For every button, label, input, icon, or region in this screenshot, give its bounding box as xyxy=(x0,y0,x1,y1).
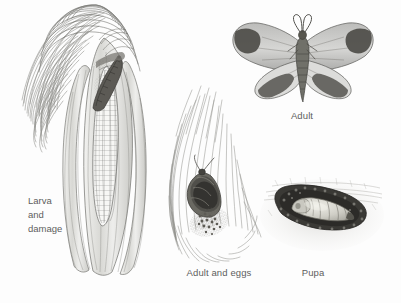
caption-adult-and-eggs: Adult and eggs xyxy=(187,267,252,278)
caption-line-2: and xyxy=(28,209,44,220)
illustration-plate: Adult xyxy=(0,0,401,303)
caption-line-3: damage xyxy=(28,223,62,234)
caption-pupa: Pupa xyxy=(302,267,325,278)
caption-adult: Adult xyxy=(291,110,313,121)
caption-line-1: Larva xyxy=(28,195,52,206)
